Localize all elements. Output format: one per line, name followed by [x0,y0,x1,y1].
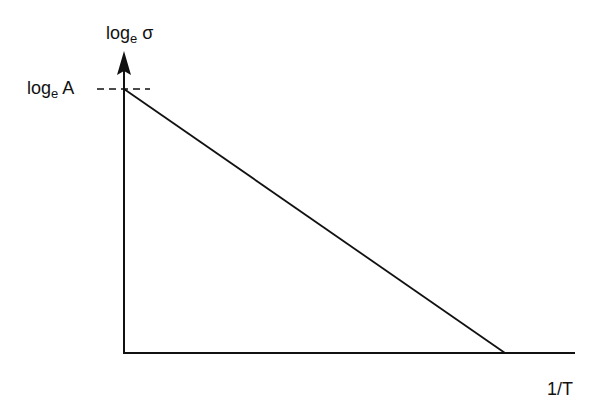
y-axis-label: loge σ [106,24,153,42]
data-line [124,89,505,353]
intercept-label: loge A [27,79,74,97]
diagram-svg [0,0,606,407]
x-axis-label: 1/T [547,380,573,398]
arrhenius-diagram: loge σ loge A 1/T [0,0,606,407]
